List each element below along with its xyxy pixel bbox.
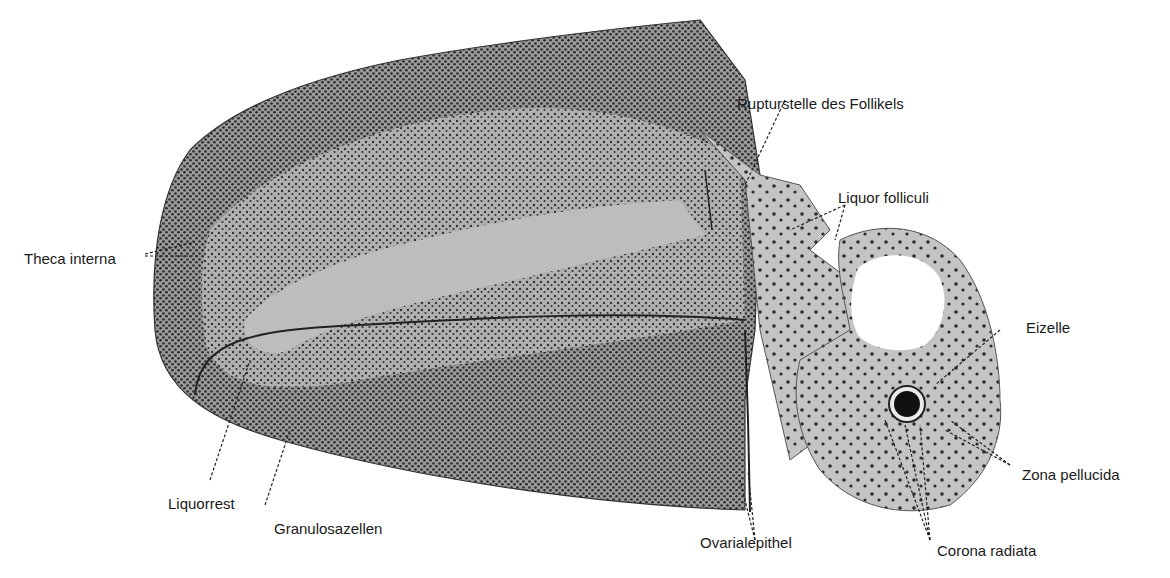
label-corona-radiata: Corona radiata xyxy=(937,543,1036,558)
follicle-diagram: Theca interna Rupturstelle des Follikels… xyxy=(0,0,1170,578)
label-rupturstelle: Rupturstelle des Follikels xyxy=(737,96,904,111)
label-eizelle: Eizelle xyxy=(1026,320,1070,335)
label-zona-pellucida: Zona pellucida xyxy=(1022,467,1120,482)
label-liquor-folliculi: Liquor folliculi xyxy=(838,190,929,205)
label-liquorrest: Liquorrest xyxy=(168,496,235,511)
egg-cell xyxy=(894,391,920,417)
follicle-illustration xyxy=(0,0,1170,578)
label-ovarialepithel: Ovarialepithel xyxy=(700,535,792,550)
label-theca-interna: Theca interna xyxy=(24,251,116,266)
label-granulosazellen: Granulosazellen xyxy=(274,521,382,536)
